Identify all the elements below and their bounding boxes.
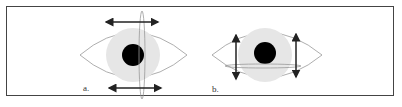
eye-diagram <box>0 0 402 107</box>
panel-b-eye <box>212 28 322 82</box>
panel-a-eye <box>80 11 187 99</box>
panel-a-label: a. <box>83 83 89 93</box>
panel-b-label: b. <box>212 84 219 94</box>
